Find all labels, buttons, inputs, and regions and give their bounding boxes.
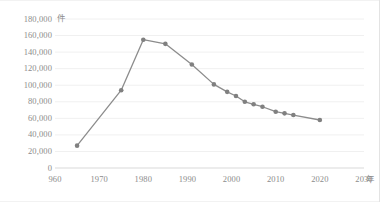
y-axis-tick-label: 0: [48, 164, 52, 173]
x-axis-tick-label: 1990: [167, 175, 207, 184]
line-chart: 180,000160,000140,000120,000100,00080,00…: [0, 0, 380, 202]
data-point: [141, 37, 146, 42]
y-axis-tick-label: 80,000: [28, 97, 52, 106]
y-axis-tick-label: 100,000: [24, 81, 52, 90]
data-point: [163, 42, 168, 47]
data-point: [212, 82, 217, 87]
x-axis-tick-label: 1970: [79, 175, 119, 184]
series-line: [77, 40, 320, 146]
x-axis-unit: 年: [366, 175, 375, 184]
data-point: [190, 62, 195, 67]
gridlines: [55, 19, 364, 151]
data-point: [273, 109, 278, 114]
y-axis-tick-label: 160,000: [24, 31, 52, 40]
x-axis-tick-label: 1980: [123, 175, 163, 184]
data-point: [119, 88, 124, 93]
x-axis-tick-label: 960: [35, 175, 75, 184]
y-axis-tick-label: 60,000: [28, 114, 52, 123]
y-axis-tick-label: 40,000: [28, 130, 52, 139]
data-point: [291, 113, 296, 118]
data-point: [243, 99, 248, 104]
data-point: [282, 111, 287, 116]
data-point: [75, 143, 80, 148]
y-axis-tick-label: 20,000: [28, 147, 52, 156]
y-axis-tick-label: 180,000: [24, 15, 52, 24]
series-markers: [75, 37, 322, 148]
x-axis-tick-label: 2020: [300, 175, 340, 184]
plot-area: [0, 0, 380, 202]
y-axis-tick-label: 140,000: [24, 48, 52, 57]
data-point: [234, 94, 239, 99]
data-point: [225, 90, 230, 95]
data-point: [318, 118, 323, 123]
data-point: [260, 104, 265, 109]
y-axis-tick-label: 120,000: [24, 64, 52, 73]
data-point: [251, 102, 256, 107]
x-axis-tick-label: 2010: [256, 175, 296, 184]
x-axis-tick-label: 2000: [212, 175, 252, 184]
y-axis-unit: 件: [57, 14, 66, 23]
